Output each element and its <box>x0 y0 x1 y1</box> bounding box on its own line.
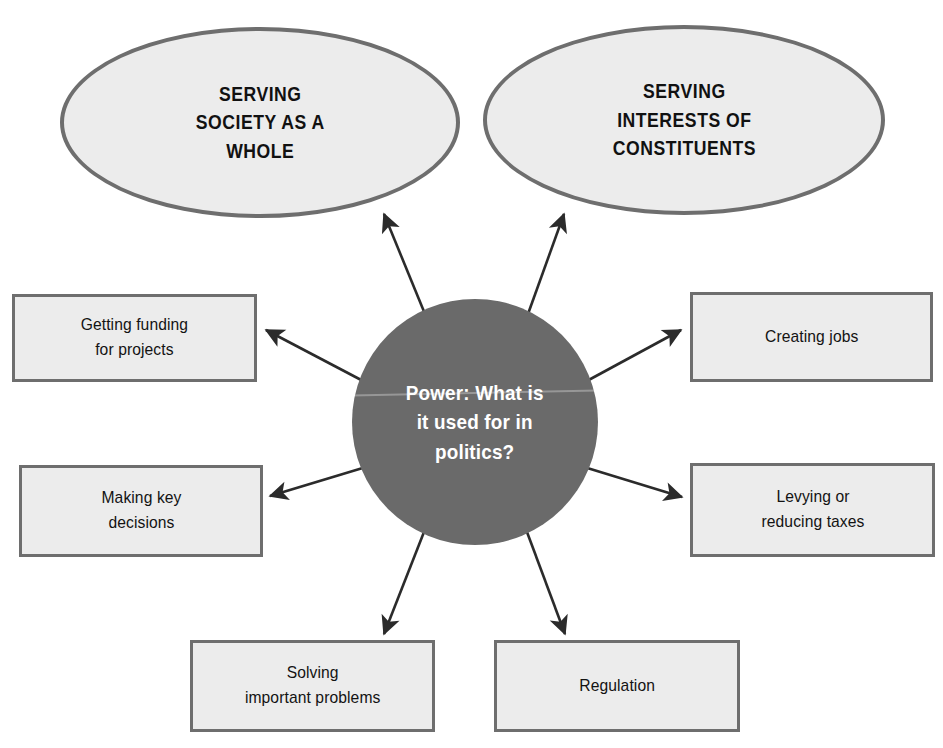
node-making-key-decisions[interactable]: Making key decisions <box>19 465 263 557</box>
arrow-to-solving-problems <box>384 532 424 634</box>
arrow-to-creating-jobs <box>585 330 681 382</box>
node-serving-interests-of-constituents[interactable]: SERVING INTERESTS OF CONSTITUENTS <box>483 25 885 215</box>
cut-off-heading-remnant <box>0 0 943 2</box>
node-power-question[interactable]: Power: What is it used for in politics? <box>352 299 598 545</box>
arrow-to-making-key-decisions <box>270 467 366 496</box>
box-label: Making key decisions <box>101 486 181 535</box>
arrow-to-levying-taxes <box>584 467 682 497</box>
node-creating-jobs[interactable]: Creating jobs <box>690 292 933 382</box>
arrow-to-getting-funding <box>266 330 365 382</box>
node-getting-funding-for-projects[interactable]: Getting funding for projects <box>12 294 257 382</box>
diagram-canvas: SERVING SOCIETY AS A WHOLE SERVING INTER… <box>0 0 943 748</box>
ellipse-label: SERVING SOCIETY AS A WHOLE <box>196 80 325 165</box>
arrow-to-serving-society <box>384 214 425 314</box>
arrow-to-regulation <box>527 532 565 634</box>
node-serving-society-as-a-whole[interactable]: SERVING SOCIETY AS A WHOLE <box>60 27 460 218</box>
node-solving-important-problems[interactable]: Solving important problems <box>190 640 435 732</box>
node-regulation[interactable]: Regulation <box>494 640 740 732</box>
node-levying-or-reducing-taxes[interactable]: Levying or reducing taxes <box>690 463 935 557</box>
center-label: Power: What is it used for in politics? <box>406 378 544 466</box>
box-label: Creating jobs <box>765 325 858 350</box>
box-label: Levying or reducing taxes <box>761 485 864 534</box>
arrow-to-serving-constituents <box>528 214 564 314</box>
box-label: Solving important problems <box>245 661 381 710</box>
box-label: Regulation <box>579 674 655 699</box>
box-label: Getting funding for projects <box>81 313 188 362</box>
ellipse-label: SERVING INTERESTS OF CONSTITUENTS <box>612 77 755 162</box>
